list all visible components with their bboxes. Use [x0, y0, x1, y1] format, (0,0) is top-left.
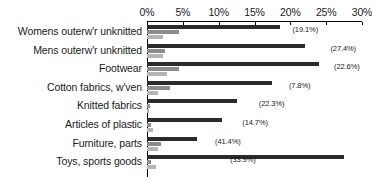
- bar-group: (22.3%): [147, 98, 362, 117]
- x-axis-tick-mark: [290, 22, 291, 25]
- category-label-column: Womens outerw'r unknittedMens outerw'r u…: [0, 0, 144, 180]
- bar-value-label: (7.8%): [289, 81, 311, 90]
- bar-group: (22.6%): [147, 61, 362, 80]
- bar-value-label: (14.7%): [242, 118, 268, 127]
- bar-series-3: [147, 91, 158, 95]
- bar-series-1: [147, 137, 197, 141]
- category-label: Furniture, parts: [72, 137, 142, 149]
- bar-series-2: [147, 142, 161, 146]
- category-label: Mens outerw'r unknitted: [33, 44, 142, 56]
- bar-series-1: [147, 118, 222, 122]
- bar-series-2: [147, 67, 179, 71]
- x-axis-tick-label: 30%: [352, 6, 372, 18]
- bar-series-2: [147, 86, 170, 90]
- bar-chart: 0%5%10%15%20%25%30% Womens outerw'r unkn…: [0, 0, 372, 180]
- x-axis-tick-label: 10%: [208, 6, 228, 18]
- bar-group: (41.4%): [147, 136, 362, 155]
- category-label: Articles of plastic: [65, 118, 142, 130]
- bar-series-2: [147, 104, 150, 108]
- bar-value-label: (22.6%): [334, 62, 360, 71]
- plot-area: (19.1%)(27.4%)(22.6%)(7.8%)(22.3%)(14.7%…: [147, 22, 362, 177]
- bar-series-1: [147, 81, 272, 85]
- x-axis-tick-label: 15%: [244, 6, 264, 18]
- bar-series-2: [147, 160, 151, 164]
- bar-group: (33.9%): [147, 154, 362, 173]
- x-axis-tick-mark: [183, 22, 184, 25]
- category-label: Footwear: [99, 62, 142, 74]
- bar-value-label: (19.1%): [292, 25, 318, 34]
- x-axis-tick-label: 25%: [316, 6, 336, 18]
- bar-series-2: [147, 30, 179, 34]
- bar-series-1: [147, 25, 280, 29]
- bar-value-label: (27.4%): [330, 44, 356, 53]
- bar-series-3: [147, 165, 156, 169]
- x-axis-tick-mark: [255, 22, 256, 25]
- x-axis-tick-label: 5%: [175, 6, 190, 18]
- bar-series-3: [147, 35, 163, 39]
- bar-group: (19.1%): [147, 24, 362, 43]
- x-axis-tick-mark: [362, 22, 363, 25]
- bar-series-3: [147, 72, 167, 76]
- bar-series-2: [147, 123, 151, 127]
- category-label: Knitted fabrics: [77, 99, 142, 111]
- x-axis-tick-mark: [147, 22, 148, 25]
- bar-series-2: [147, 49, 165, 53]
- x-axis-tick-label: 20%: [280, 6, 300, 18]
- category-label: Toys, sports goods: [56, 155, 142, 167]
- x-axis-tick-mark: [219, 22, 220, 25]
- bar-value-label: (41.4%): [215, 137, 241, 146]
- bar-value-label: (22.3%): [259, 99, 285, 108]
- x-axis-tick-mark: [326, 22, 327, 25]
- bar-series-1: [147, 99, 237, 103]
- bar-series-1: [147, 44, 305, 48]
- bar-series-3: [147, 147, 158, 151]
- bar-value-label: (33.9%): [230, 155, 256, 164]
- bar-group: (7.8%): [147, 80, 362, 99]
- bar-group: (27.4%): [147, 43, 362, 62]
- bar-series-3: [147, 109, 149, 113]
- bar-series-1: [147, 62, 319, 66]
- bar-series-3: [147, 128, 153, 132]
- category-label: Cotton fabrics, w'ven: [47, 81, 142, 93]
- bar-group: (14.7%): [147, 117, 362, 136]
- category-label: Womens outerw'r unknitted: [18, 25, 142, 37]
- bar-series-3: [147, 54, 163, 58]
